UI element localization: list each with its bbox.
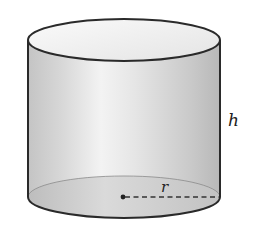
radius-label: r — [161, 178, 169, 196]
cylinder-top-face — [28, 19, 220, 61]
height-label: h — [228, 110, 239, 130]
cylinder-diagram: r h — [0, 0, 255, 227]
center-point — [121, 195, 126, 200]
